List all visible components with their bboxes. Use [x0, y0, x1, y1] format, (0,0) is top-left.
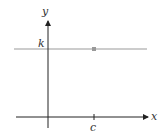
graph: y k c x	[0, 0, 166, 137]
y-axis-label: y	[41, 5, 49, 18]
point-c-k	[92, 47, 96, 51]
x-axis-label: x	[151, 110, 158, 123]
k-label: k	[38, 37, 45, 50]
c-label: c	[90, 121, 96, 134]
